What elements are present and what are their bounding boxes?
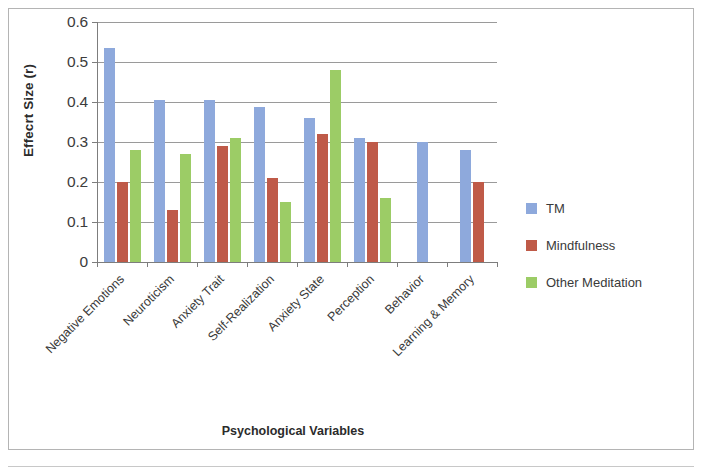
- y-axis-tick-label: 0.2: [42, 173, 88, 191]
- y-axis-tick-mark: [92, 22, 98, 23]
- legend-item: Other Meditation: [526, 264, 696, 301]
- x-axis-tick-mark: [247, 262, 248, 267]
- bar: [104, 48, 115, 262]
- bar-group: [397, 22, 447, 262]
- bar: [254, 107, 265, 262]
- legend-item: Mindfulness: [526, 227, 696, 264]
- x-axis-tick-mark: [97, 262, 98, 267]
- x-axis-tick-mark: [147, 262, 148, 267]
- y-axis-tick-label: 0.3: [42, 133, 88, 151]
- bar: [280, 202, 291, 262]
- bar-group: [97, 22, 147, 262]
- x-axis-tick-mark: [397, 262, 398, 267]
- bar-group: [197, 22, 247, 262]
- y-axis-tick-label: 0.4: [42, 93, 88, 111]
- bar: [367, 142, 378, 262]
- bar-group: [297, 22, 347, 262]
- bar: [317, 134, 328, 262]
- legend-item-label: Mindfulness: [546, 238, 615, 253]
- legend-swatch-icon: [526, 203, 537, 214]
- bar: [130, 150, 141, 262]
- y-axis-title: Effecrt Size (r): [21, 26, 36, 196]
- bar-group: [247, 22, 297, 262]
- legend-swatch-icon: [526, 277, 537, 288]
- page-bottom-rule: [8, 466, 694, 467]
- bar: [117, 182, 128, 262]
- y-axis-tick-mark: [92, 182, 98, 183]
- bar: [304, 118, 315, 262]
- bar: [380, 198, 391, 262]
- bar: [180, 154, 191, 262]
- legend-item-label: TM: [546, 201, 565, 216]
- y-axis-tick-label: 0: [42, 253, 88, 271]
- y-axis-tick-mark: [92, 62, 98, 63]
- x-axis-tick-mark: [197, 262, 198, 267]
- y-axis-tick-label: 0.1: [42, 213, 88, 231]
- y-axis-tick-labels: 0.60.50.40.30.20.10: [36, 0, 88, 474]
- x-axis-tick-mark: [497, 262, 498, 267]
- y-axis-tick-label: 0.5: [42, 53, 88, 71]
- bar: [330, 70, 341, 262]
- bar: [354, 138, 365, 262]
- bar-group: [447, 22, 497, 262]
- x-axis-tick-mark: [447, 262, 448, 267]
- bar: [167, 210, 178, 262]
- legend-item-label: Other Meditation: [546, 275, 642, 290]
- y-axis-tick-mark: [92, 102, 98, 103]
- x-axis-tick-mark: [347, 262, 348, 267]
- bar: [154, 100, 165, 262]
- bar: [217, 146, 228, 262]
- legend-swatch-icon: [526, 240, 537, 251]
- y-axis-tick-mark: [92, 222, 98, 223]
- bar: [473, 182, 484, 262]
- y-axis-tick-label: 0.6: [42, 13, 88, 31]
- y-axis-tick-mark: [92, 142, 98, 143]
- bar-group: [347, 22, 397, 262]
- chart-page: Effecrt Size (r) 0.60.50.40.30.20.10 Neg…: [0, 0, 702, 474]
- x-axis-tick-mark: [297, 262, 298, 267]
- bar-group: [147, 22, 197, 262]
- bar: [417, 142, 428, 262]
- bar: [204, 100, 215, 262]
- bar: [267, 178, 278, 262]
- bar: [460, 150, 471, 262]
- chart-legend: TMMindfulnessOther Meditation: [526, 190, 696, 301]
- bar: [230, 138, 241, 262]
- plot-area: [97, 22, 497, 262]
- x-axis-title: Psychological Variables: [148, 424, 438, 438]
- legend-item: TM: [526, 190, 696, 227]
